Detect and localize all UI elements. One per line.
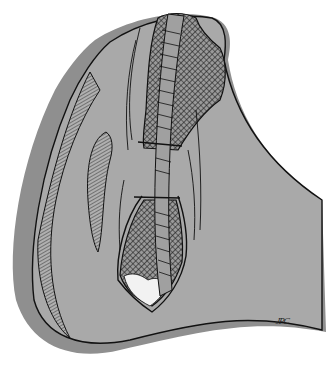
artist-signature: JPC <box>275 316 289 326</box>
surgical-illustration <box>0 0 336 368</box>
